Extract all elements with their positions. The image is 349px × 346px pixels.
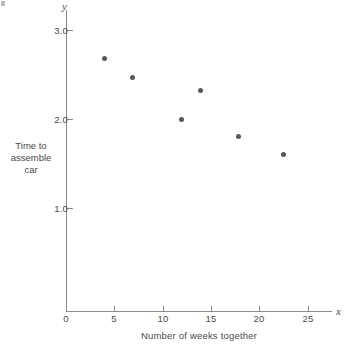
x-tick-label-25: 25 xyxy=(293,313,323,324)
x-tick-mark-15 xyxy=(211,306,212,312)
x-tick-label-5: 5 xyxy=(99,313,129,324)
x-axis-title: Number of weeks together xyxy=(66,330,332,341)
x-axis-line xyxy=(66,311,332,312)
x-axis-symbol: x xyxy=(336,305,341,317)
y-axis-title-line-2: assemble xyxy=(2,152,60,164)
x-tick-label-15: 15 xyxy=(196,313,226,324)
data-point xyxy=(198,88,203,93)
y-axis-line xyxy=(66,10,67,312)
y-tick-label-1: 1.0 xyxy=(28,203,68,214)
x-tick-mark-5 xyxy=(114,306,115,312)
x-tick-label-10: 10 xyxy=(148,313,178,324)
x-tick-mark-10 xyxy=(163,306,164,312)
x-tick-label-0: 0 xyxy=(51,313,81,324)
data-point xyxy=(102,56,107,61)
y-axis-symbol: y xyxy=(62,0,67,12)
x-tick-mark-20 xyxy=(259,306,260,312)
y-axis-title-line-1: Time to xyxy=(2,140,60,152)
data-point xyxy=(130,75,135,80)
data-point xyxy=(179,117,184,122)
x-tick-label-20: 20 xyxy=(244,313,274,324)
y-axis-title: Time to assemble car xyxy=(2,140,60,176)
y-tick-label-2: 2.0 xyxy=(28,114,68,125)
y-tick-label-3: 3.0 xyxy=(28,25,68,36)
scan-artifact-mark xyxy=(1,1,5,6)
data-point xyxy=(236,134,241,139)
x-tick-mark-25 xyxy=(308,306,309,312)
y-axis-title-line-3: car xyxy=(2,164,60,176)
scatter-plot-figure: y x 3.0 2.0 1.0 0 5 10 15 20 25 Time to … xyxy=(0,0,349,346)
data-point xyxy=(281,152,286,157)
